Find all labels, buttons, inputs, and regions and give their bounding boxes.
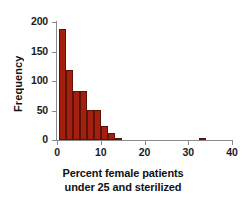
plot-area [57, 22, 232, 140]
histogram-bar [87, 110, 94, 140]
x-tick-mark-0 [57, 141, 58, 145]
histogram-bar [115, 138, 122, 140]
y-tick-label-0: 0 [8, 133, 48, 145]
x-tick-mark-40 [232, 141, 233, 145]
x-tick-mark-10 [101, 141, 102, 145]
histogram-bar [73, 91, 80, 140]
histogram-bar [199, 138, 206, 140]
x-axis-title: Percent female patients under 25 and ste… [28, 166, 218, 194]
histogram-bar [108, 133, 115, 140]
histogram-bar [80, 91, 87, 140]
histogram-bar [66, 70, 73, 140]
y-tick-label-150: 150 [8, 45, 48, 57]
x-tick-label-30: 30 [173, 146, 203, 158]
y-tick-label-100: 100 [8, 74, 48, 86]
x-tick-mark-30 [188, 141, 189, 145]
y-tick-label-200: 200 [8, 15, 48, 27]
y-tick-label-50: 50 [8, 104, 48, 116]
x-tick-mark-20 [145, 141, 146, 145]
x-tick-label-10: 10 [86, 146, 116, 158]
histogram-bar [94, 110, 101, 140]
x-axis-title-line-1: Percent female patients [62, 167, 183, 179]
histogram-bar [59, 29, 66, 141]
histogram-bars [57, 22, 232, 140]
x-axis-title-line-2: under 25 and sterilized [28, 180, 218, 194]
x-tick-label-40: 40 [217, 146, 244, 158]
histogram-figure: Frequency 0 50 100 150 200 0 10 20 30 40… [0, 0, 244, 203]
histogram-bar [101, 126, 108, 140]
x-tick-label-0: 0 [42, 146, 72, 158]
x-tick-label-20: 20 [130, 146, 160, 158]
